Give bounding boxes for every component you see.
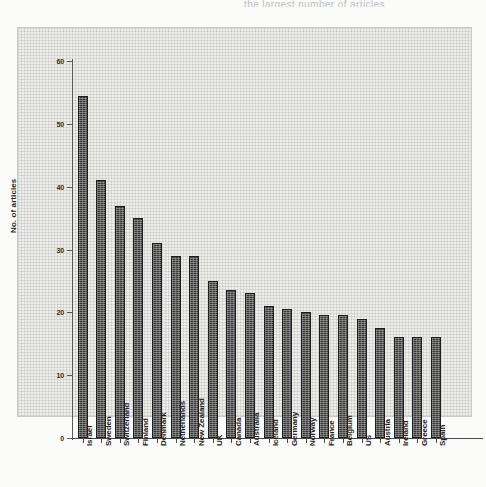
x-axis-category-label: Austria bbox=[384, 419, 392, 446]
bar bbox=[226, 290, 236, 438]
x-axis-tick bbox=[380, 439, 381, 443]
y-axis-tick-label: 0 bbox=[38, 435, 64, 442]
x-axis-tick bbox=[324, 439, 325, 443]
x-axis-category-label: Finland bbox=[142, 418, 150, 446]
bar bbox=[96, 180, 106, 438]
x-axis-tick bbox=[436, 439, 437, 443]
x-axis-tick bbox=[213, 439, 214, 443]
x-axis-category-label: Germany bbox=[291, 412, 299, 446]
x-axis-category-label: Denmark bbox=[160, 412, 168, 446]
bar bbox=[431, 337, 441, 438]
x-axis-category-label: New Zealand bbox=[198, 398, 206, 446]
x-axis-tick bbox=[269, 439, 270, 443]
bar bbox=[133, 218, 143, 438]
x-axis-category-label: Switzerland bbox=[123, 403, 131, 446]
x-axis-category-label: France bbox=[328, 420, 336, 446]
x-axis-category-label: Israel bbox=[86, 426, 94, 446]
x-axis-tick bbox=[83, 439, 84, 443]
x-axis-tick bbox=[287, 439, 288, 443]
x-axis-tick bbox=[399, 439, 400, 443]
x-axis-tick bbox=[362, 439, 363, 443]
x-axis-tick bbox=[306, 439, 307, 443]
x-axis-category-label: Iceland bbox=[272, 419, 280, 446]
x-axis-tick bbox=[231, 439, 232, 443]
y-axis-tick-label: 50 bbox=[38, 121, 64, 128]
x-axis-tick bbox=[343, 439, 344, 443]
y-axis-tick-label: 20 bbox=[38, 309, 64, 316]
x-axis-category-label: Belgium bbox=[346, 415, 354, 446]
x-axis-category-label: Australia bbox=[253, 413, 261, 446]
x-axis-tick bbox=[250, 439, 251, 443]
cropped-caption-text: the largest number of articles bbox=[244, 0, 484, 7]
y-axis-tick-label: 30 bbox=[38, 247, 64, 254]
x-axis-category-label: Greece bbox=[421, 419, 429, 446]
x-axis-category-label: US bbox=[365, 435, 373, 446]
bar-chart: No. of articles 0102030405060 IsraelSwed… bbox=[17, 27, 472, 417]
x-axis-category-label: Spain bbox=[439, 425, 447, 446]
x-axis-tick bbox=[417, 439, 418, 443]
bar bbox=[208, 281, 218, 438]
x-axis-category-label: UK bbox=[216, 435, 224, 446]
plot-area bbox=[73, 61, 483, 438]
x-axis-tick bbox=[157, 439, 158, 443]
bar bbox=[152, 243, 162, 438]
x-axis-category-label: Netherlands bbox=[179, 401, 187, 446]
y-axis-title: No. of articles bbox=[10, 179, 18, 233]
bar bbox=[78, 96, 88, 438]
bar bbox=[357, 319, 367, 438]
x-axis-tick bbox=[194, 439, 195, 443]
scanned-figure-page: the largest number of articles No. of ar… bbox=[0, 0, 486, 487]
x-axis-category-label: Sweden bbox=[105, 416, 113, 446]
x-axis-category-label: Ireland bbox=[402, 420, 410, 446]
y-axis-tick bbox=[67, 438, 73, 439]
x-axis-tick bbox=[101, 439, 102, 443]
x-axis-tick bbox=[120, 439, 121, 443]
x-axis-tick bbox=[176, 439, 177, 443]
x-axis-category-label: Canada bbox=[235, 418, 243, 446]
y-axis-tick-label: 60 bbox=[38, 58, 64, 65]
y-axis-tick-label: 10 bbox=[38, 372, 64, 379]
x-axis-tick bbox=[138, 439, 139, 443]
x-axis-category-label: Norway bbox=[309, 418, 317, 446]
y-axis-tick-label: 40 bbox=[38, 184, 64, 191]
